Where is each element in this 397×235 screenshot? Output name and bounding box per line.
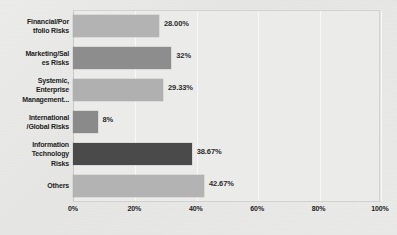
category-label: International/Global Risks [0,113,69,132]
x-tick-label: 80% [312,205,326,212]
x-tick-label: 20% [128,205,142,212]
category-label-line: es Risks [42,59,69,66]
bar[interactable] [73,47,171,69]
x-axis-tick-labels: 0%20%40%60%80%100% [0,205,397,221]
x-tick-label: 0% [68,205,78,212]
category-label: Marketing/Sales Risks [0,49,69,68]
category-label-line: Risks [51,160,69,167]
category-label-line: International [29,114,69,121]
bars-layer: 28.00%32%29.33%8%38.67%42.67% [73,10,380,202]
bar-row: 32% [73,42,380,74]
bar[interactable] [73,79,163,101]
bar-value-label: 29.33% [168,83,193,92]
bar[interactable] [73,15,159,37]
bar-value-label: 32% [176,51,191,60]
category-label-line: Information [32,141,69,148]
x-tick-label: 40% [189,205,203,212]
x-tick-label: 60% [250,205,264,212]
category-labels: Financial/Portfolio RisksMarketing/Sales… [0,10,69,202]
category-label-line: /Global Risks [27,123,69,130]
category-label: Financial/Portfolio Risks [0,17,69,36]
bar-value-label: 8% [103,115,114,124]
category-label-line: Systemic, [38,77,69,84]
category-label-line: Others [47,182,69,189]
category-label-line: Management... [22,96,69,103]
bar-row: 8% [73,106,380,138]
category-label-line: Marketing/Sal [25,50,69,57]
x-tick-label: 100% [371,205,389,212]
bar[interactable] [73,111,98,133]
bar-row: 28.00% [73,10,380,42]
gridline [381,11,382,201]
category-label: Systemic,EnterpriseManagement... [0,76,69,105]
bar-value-label: 28.00% [164,19,189,28]
category-label: Others [0,181,69,191]
bar-value-label: 38.67% [197,147,222,156]
bar-row: 29.33% [73,74,380,106]
bar[interactable] [73,143,192,165]
bar-row: 42.67% [73,170,380,202]
category-label-line: Enterprise [36,86,69,93]
bar-row: 38.67% [73,138,380,170]
category-label-line: Technology [32,150,69,157]
category-label: InformationTechnologyRisks [0,140,69,169]
bar-value-label: 42.67% [209,179,234,188]
category-label-line: tfolio Risks [33,27,69,34]
bar-chart: 28.00%32%29.33%8%38.67%42.67% Financial/… [0,0,397,235]
bar[interactable] [73,175,204,197]
category-label-line: Financial/Por [27,18,69,25]
